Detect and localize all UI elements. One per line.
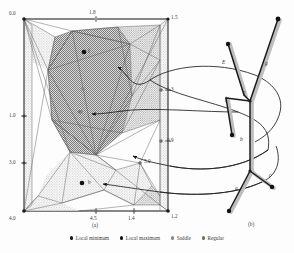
legend-label-regular: Regular [207, 235, 223, 241]
tree-node-E [226, 42, 230, 46]
legend-label-saddle: Saddle [177, 235, 191, 241]
node-regular [159, 88, 163, 92]
tree-label-f: f [225, 96, 227, 102]
right-wall-shade [160, 19, 168, 211]
legend-label-local-maximum: Local maximum [126, 235, 160, 241]
tree-label-b: b [240, 136, 243, 142]
label-interior-f: f [88, 49, 90, 54]
node-corner [166, 17, 169, 20]
tree-branch-E [228, 44, 244, 95]
label-corner-top-right: 1.5 [171, 15, 178, 20]
figure-container: 0.0 1.8 1.5 4.0 4.5 1.4 1.2 1.0 3.0 1.3 … [0, 0, 294, 253]
label-right-1: 1.3 [167, 87, 174, 92]
filled-circle-marker-icon [70, 236, 73, 239]
label-left-1: 1.0 [9, 113, 16, 118]
node-regular [94, 17, 98, 21]
node-corner [166, 209, 170, 213]
legend-item-local-minimum: Local minimum [70, 235, 109, 241]
filled-circle-marker-icon [120, 236, 123, 239]
tree-label-e: e [243, 89, 245, 95]
label-corner-bottom-right: 1.2 [171, 214, 178, 219]
label-corner-top-left: 0.0 [9, 11, 16, 16]
label-top-mid: 1.8 [89, 10, 96, 15]
tree-label-c: c [269, 172, 271, 178]
legend-item-saddle: Saddle [171, 235, 191, 241]
contour-tree [226, 17, 281, 214]
tree-node-e [248, 99, 251, 102]
node-corner [22, 17, 26, 21]
legend-label-local-minimum: Local minimum [76, 235, 109, 241]
node-local-minimum [80, 181, 85, 186]
figure-svg [0, 0, 294, 253]
filled-circle-marker-icon [171, 236, 174, 239]
node-saddle [81, 87, 85, 91]
node-corner [22, 209, 26, 213]
node-regular [94, 209, 97, 212]
label-right-2: 0.9 [167, 138, 174, 143]
node-local-maximum [82, 50, 87, 55]
label-bottom-mid: 4.5 [90, 216, 97, 221]
arc-to-regular [133, 150, 268, 169]
node-regular [132, 209, 135, 212]
node-regular [138, 161, 142, 165]
tree-label-E: E [222, 59, 225, 65]
legend-item-regular: Regular [202, 235, 224, 241]
left-wall-shade [24, 19, 32, 211]
filled-circle-marker-icon [202, 236, 205, 239]
legend: Local minimum Local maximum Saddle Regul… [0, 231, 294, 245]
tree-node-g [276, 17, 281, 22]
tree-node-a [227, 209, 231, 213]
label-left-2: 3.0 [9, 160, 16, 165]
label-interior-e: e [78, 109, 80, 114]
label-bottom-mid2: 1.4 [128, 216, 135, 221]
tree-node-f [230, 133, 234, 137]
tree-label-a: a [235, 185, 238, 191]
label-corner-bottom-left: 4.0 [9, 216, 16, 221]
node-regular [159, 139, 163, 143]
panel-b-tag: (b) [248, 221, 254, 227]
legend-item-local-maximum: Local maximum [120, 235, 160, 241]
node-edge [23, 115, 26, 118]
label-interior-5-0: 5.0 [144, 159, 151, 164]
panel-a-tag: (a) [92, 222, 98, 228]
tree-label-g: g [265, 60, 268, 66]
tree-node-b [248, 169, 251, 172]
label-interior-b: b [88, 180, 91, 185]
tree-node-c [270, 185, 274, 189]
node-edge [23, 162, 26, 165]
